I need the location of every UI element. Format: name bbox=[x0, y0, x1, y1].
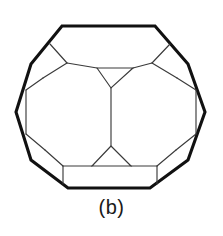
upper-right-node-edge-a bbox=[152, 44, 170, 63]
polyhedron-diagram bbox=[0, 0, 223, 200]
upper-left-node-center-edge bbox=[67, 63, 97, 68]
upper-left-node-edge-a bbox=[50, 44, 67, 63]
central-upper-triangle-edges bbox=[97, 68, 133, 88]
figure-panel: (b) bbox=[0, 0, 223, 236]
lower-right-node-edge-a bbox=[157, 150, 176, 166]
upper-left-face-chord-edge bbox=[26, 78, 43, 90]
figure-caption: (b) bbox=[0, 196, 223, 219]
upper-left-node-edge-b bbox=[43, 63, 67, 78]
lower-left-node-edge-a bbox=[45, 150, 63, 166]
upper-right-node-edge-b bbox=[152, 63, 177, 78]
upper-right-node-center-edge bbox=[133, 63, 152, 68]
lower-left-face-chord-edge bbox=[26, 134, 45, 150]
central-lower-triangle-edges bbox=[92, 146, 131, 166]
